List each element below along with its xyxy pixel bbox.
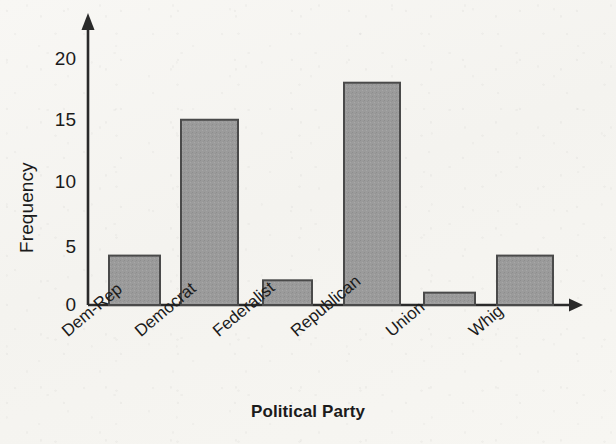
y-tick-label-20: 20 <box>42 48 76 70</box>
y-tick-label-10: 10 <box>42 171 76 193</box>
y-tick-label-15: 15 <box>42 109 76 131</box>
bar-group <box>424 293 475 305</box>
bar-democrat <box>181 120 238 305</box>
y-axis-title: Frequency <box>16 162 38 253</box>
bar-chart: Frequency 20 15 10 5 0 Dem-Rep Democrat … <box>0 0 616 444</box>
x-axis-arrowhead <box>569 299 583 312</box>
bar-group <box>181 120 238 305</box>
bar-whig <box>497 256 553 305</box>
y-tick-label-5: 5 <box>42 236 76 258</box>
x-axis-title: Political Party <box>0 402 616 422</box>
y-axis-arrowhead <box>82 13 95 30</box>
y-tick-label-0: 0 <box>42 294 76 316</box>
bar-group <box>497 256 553 305</box>
plot-area <box>0 0 616 444</box>
bar-union <box>424 293 475 305</box>
